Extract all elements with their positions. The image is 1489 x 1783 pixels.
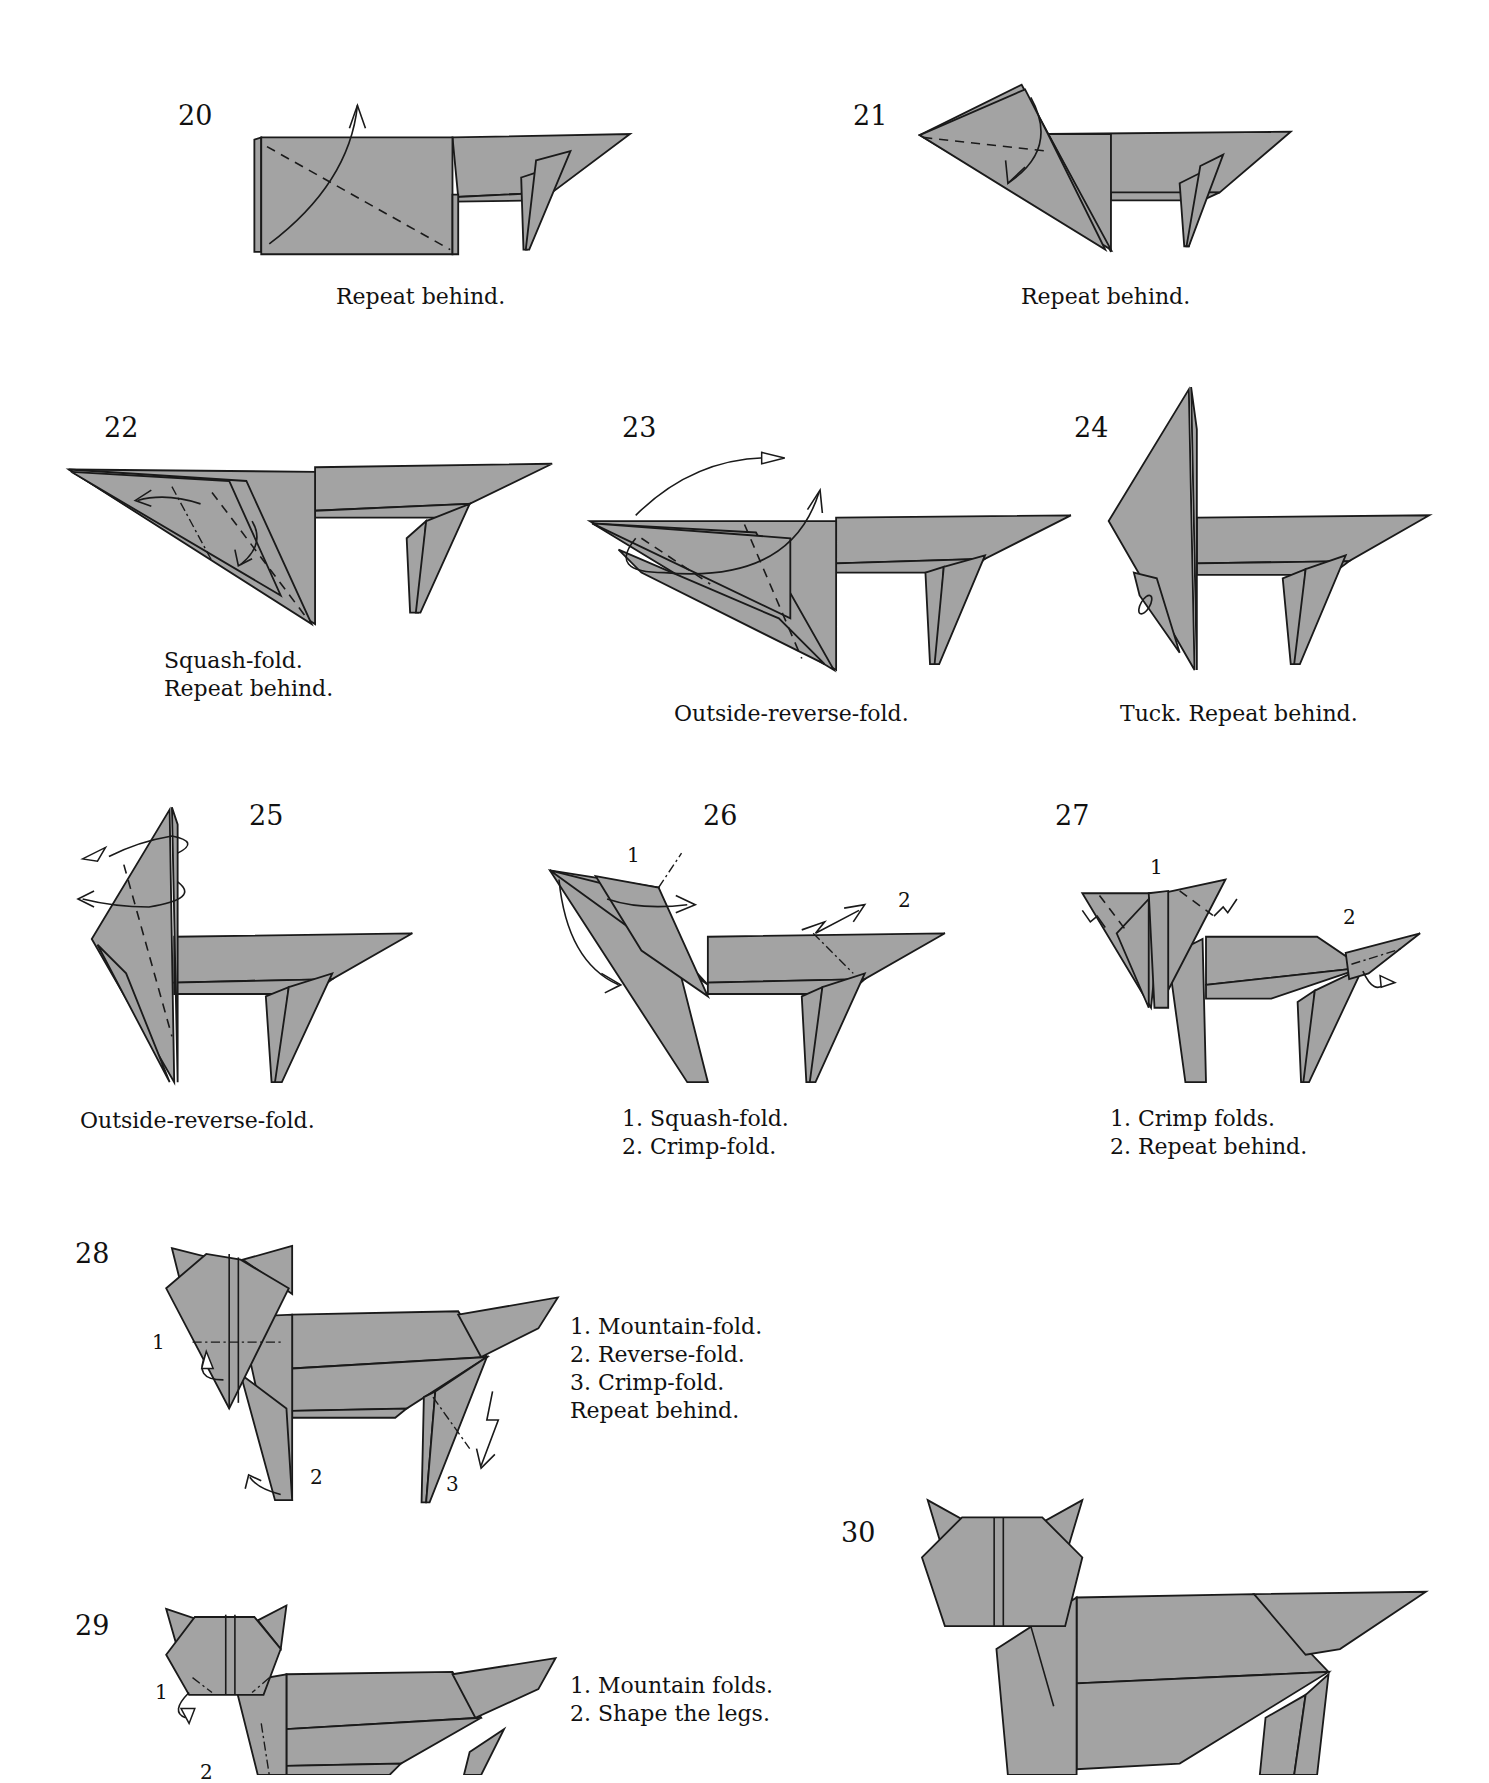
step-number: 22: [104, 412, 138, 443]
caption-line: Repeat behind.: [336, 283, 505, 311]
caption-line: 1. Squash-fold.: [622, 1105, 789, 1133]
fold-label: 2: [1343, 905, 1356, 929]
step-28-diagram: [166, 1246, 558, 1503]
step-26-diagram: [550, 853, 945, 1082]
caption-line: 2. Reverse-fold.: [570, 1341, 762, 1369]
caption-line: Repeat behind.: [164, 675, 333, 703]
step-21-caption: Repeat behind.: [1021, 283, 1190, 311]
step-30-diagram: [922, 1500, 1426, 1775]
step-27-diagram: [1082, 879, 1420, 1133]
fold-label: 1: [1150, 855, 1163, 879]
step-26-caption: 1. Squash-fold. 2. Crimp-fold.: [622, 1105, 789, 1161]
caption-line: Outside-reverse-fold.: [674, 700, 909, 728]
step-29-caption: 1. Mountain folds. 2. Shape the legs.: [570, 1672, 773, 1728]
caption-line: 3. Crimp-fold.: [570, 1369, 762, 1397]
caption-line: 2. Crimp-fold.: [622, 1133, 789, 1161]
step-number: 23: [622, 412, 656, 443]
step-number: 29: [75, 1610, 109, 1641]
step-number: 27: [1055, 800, 1089, 831]
fold-label: 2: [310, 1465, 323, 1489]
step-29-diagram: [166, 1606, 555, 1775]
caption-line: 1. Mountain-fold.: [570, 1313, 762, 1341]
step-25-caption: Outside-reverse-fold.: [80, 1107, 315, 1135]
caption-line: Outside-reverse-fold.: [80, 1107, 315, 1135]
step-20-diagram: [254, 105, 630, 254]
step-number: 25: [249, 800, 283, 831]
step-number: 30: [841, 1517, 875, 1548]
step-20-caption: Repeat behind.: [336, 283, 505, 311]
fold-label: 3: [446, 1472, 459, 1496]
step-22-diagram: [69, 464, 552, 624]
step-22-caption: Squash-fold. Repeat behind.: [164, 647, 333, 703]
caption-line: Repeat behind.: [570, 1397, 762, 1425]
step-23-diagram: [590, 452, 1071, 670]
caption-line: 1. Crimp folds.: [1110, 1105, 1307, 1133]
step-27-caption: 1. Crimp folds. 2. Repeat behind.: [1110, 1105, 1307, 1161]
fold-label: 1: [155, 1680, 168, 1704]
fold-label: 2: [200, 1760, 213, 1783]
step-number: 26: [703, 800, 737, 831]
step-number: 28: [75, 1238, 109, 1269]
step-21-diagram: [920, 85, 1291, 252]
step-24-caption: Tuck. Repeat behind.: [1120, 700, 1358, 728]
fold-label: 2: [898, 888, 911, 912]
caption-line: Tuck. Repeat behind.: [1120, 700, 1358, 728]
caption-line: 2. Shape the legs.: [570, 1700, 773, 1728]
step-24-diagram: [1109, 387, 1430, 670]
step-23-caption: Outside-reverse-fold.: [674, 700, 909, 728]
caption-line: 1. Mountain folds.: [570, 1672, 773, 1700]
step-25-diagram: [78, 807, 412, 1082]
step-number: 24: [1074, 412, 1108, 443]
step-number: 21: [853, 100, 887, 131]
caption-line: Repeat behind.: [1021, 283, 1190, 311]
caption-line: 2. Repeat behind.: [1110, 1133, 1307, 1161]
caption-line: Squash-fold.: [164, 647, 333, 675]
fold-label: 1: [152, 1330, 165, 1354]
step-28-caption: 1. Mountain-fold. 2. Reverse-fold. 3. Cr…: [570, 1313, 762, 1425]
step-number: 20: [178, 100, 212, 131]
fold-label: 1: [627, 843, 640, 867]
